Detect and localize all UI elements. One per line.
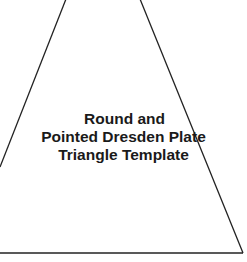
title-line-2: Pointed Dresden Plate — [0, 128, 247, 146]
title-line-1: Round and — [0, 110, 247, 128]
template-title: Round and Pointed Dresden Plate Triangle… — [0, 110, 247, 164]
title-line-3: Triangle Template — [0, 146, 247, 164]
